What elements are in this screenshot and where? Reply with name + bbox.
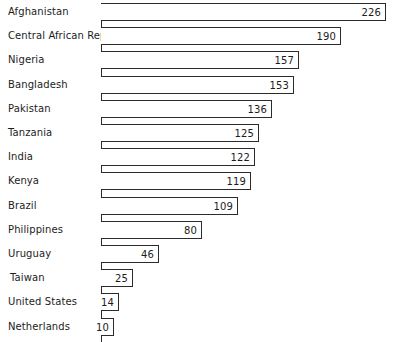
bar-value-label: 25: [115, 273, 128, 284]
bar-value-label: 46: [141, 249, 154, 260]
category-label: Nigeria: [8, 54, 44, 66]
category-label: Bangladesh: [8, 79, 68, 91]
category-label: Pakistan: [8, 103, 51, 115]
bar-value-label: 125: [235, 128, 254, 139]
bar-chart: Afghanistan226Central African Rep.190Nig…: [0, 0, 394, 342]
bar: 109: [101, 197, 238, 215]
category-label: Central African Rep.: [8, 30, 110, 42]
category-label: Uruguay: [8, 248, 51, 260]
category-label: Kenya: [8, 175, 39, 187]
bar: 14: [101, 293, 119, 311]
bar: 157: [101, 51, 299, 69]
bar: 190: [101, 27, 341, 45]
category-label: Taiwan: [10, 272, 45, 284]
bar-value-label: 136: [248, 103, 267, 114]
bar: 80: [101, 221, 202, 239]
bar-value-label: 226: [362, 7, 381, 18]
category-label: India: [8, 151, 33, 163]
bar-value-label: 109: [214, 200, 233, 211]
bar: 119: [101, 172, 251, 190]
bar: 10: [101, 318, 114, 336]
bar: 153: [101, 76, 294, 94]
bar-value-label: 190: [317, 31, 336, 42]
bar: 226: [101, 3, 386, 21]
bar: 46: [101, 245, 159, 263]
bar: 136: [101, 100, 272, 118]
category-label: Afghanistan: [8, 6, 69, 18]
bar-value-label: 122: [231, 152, 250, 163]
bar-value-label: 153: [270, 79, 289, 90]
bar-value-label: 14: [101, 297, 114, 308]
category-label: Netherlands: [8, 321, 70, 333]
bar: 25: [101, 269, 133, 287]
bar: 125: [101, 124, 259, 142]
bar-value-label: 157: [275, 55, 294, 66]
bar-value-label: 80: [184, 224, 197, 235]
category-label: Philippines: [8, 224, 63, 236]
category-label: Brazil: [8, 200, 37, 212]
category-label: Tanzania: [8, 127, 52, 139]
bar-value-label: 10: [96, 321, 109, 332]
bar: 122: [101, 148, 255, 166]
bar-value-label: 119: [227, 176, 246, 187]
category-label: United States: [8, 296, 77, 308]
